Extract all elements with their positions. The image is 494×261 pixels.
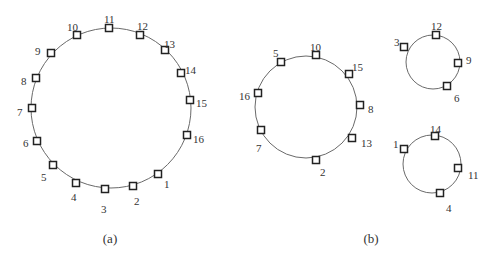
- node-square-2: [130, 183, 137, 190]
- node-label: 2: [134, 195, 140, 207]
- node-label: 5: [41, 171, 47, 183]
- ring-circle: [403, 135, 461, 193]
- node-square-2: [313, 157, 320, 164]
- panel-1: 10158132716512963141141(b): [239, 20, 479, 246]
- node-label: 7: [17, 106, 23, 118]
- node-square-3: [102, 186, 109, 193]
- node-label: 14: [430, 123, 442, 135]
- node-label: 10: [67, 21, 79, 33]
- node-label: 8: [21, 75, 27, 87]
- ring-diagram: 11121314151612345678910(a)10158132716512…: [0, 0, 494, 261]
- node-square-11: [106, 25, 113, 32]
- node-square-9: [455, 60, 462, 67]
- node-square-11: [455, 165, 462, 172]
- node-label: 15: [352, 61, 364, 73]
- node-square-14: [178, 70, 185, 77]
- ring-circle: [406, 35, 460, 89]
- node-label: 10: [310, 41, 322, 53]
- node-label: 6: [23, 137, 29, 149]
- node-label: 9: [466, 54, 472, 66]
- node-square-6: [34, 138, 41, 145]
- node-label: 12: [137, 20, 148, 32]
- node-label: 11: [104, 13, 115, 25]
- ring-b3: 141141: [393, 123, 479, 214]
- panel-caption: (a): [103, 231, 117, 246]
- node-label: 14: [185, 64, 197, 76]
- node-label: 13: [164, 38, 176, 50]
- node-label: 6: [454, 92, 460, 104]
- ring-b2: 12963: [394, 20, 472, 104]
- node-square-4: [437, 190, 444, 197]
- node-label: 11: [468, 169, 479, 181]
- node-label: 9: [35, 45, 41, 57]
- node-label: 1: [164, 178, 170, 190]
- node-square-8: [357, 102, 364, 109]
- node-square-13: [349, 135, 356, 142]
- node-square-7: [29, 105, 36, 112]
- node-square-9: [48, 50, 55, 57]
- ring-b1: 101581327165: [239, 41, 374, 178]
- node-label: 8: [368, 103, 374, 115]
- node-label: 3: [394, 36, 400, 48]
- panel-caption: (b): [363, 231, 378, 246]
- ring-circle: [255, 56, 357, 158]
- node-square-8: [33, 75, 40, 82]
- node-label: 1: [393, 138, 399, 150]
- panel-0: 11121314151612345678910(a): [17, 13, 208, 246]
- node-label: 12: [431, 20, 442, 32]
- node-label: 3: [101, 203, 107, 215]
- node-square-12: [433, 32, 440, 39]
- node-label: 16: [239, 90, 251, 102]
- node-square-5: [278, 59, 285, 66]
- node-label: 7: [256, 142, 262, 154]
- node-square-6: [444, 83, 451, 90]
- node-square-16: [255, 90, 262, 97]
- node-square-7: [258, 127, 265, 134]
- node-label: 13: [361, 137, 373, 149]
- node-label: 15: [196, 97, 208, 109]
- node-label: 4: [446, 202, 452, 214]
- node-label: 4: [71, 191, 77, 203]
- node-label: 16: [193, 133, 205, 145]
- node-square-5: [50, 162, 57, 169]
- node-square-1: [401, 146, 408, 153]
- ring-a: 11121314151612345678910: [17, 13, 208, 215]
- node-label: 5: [273, 47, 279, 59]
- node-square-12: [137, 32, 144, 39]
- node-square-4: [73, 180, 80, 187]
- node-square-16: [184, 132, 191, 139]
- node-square-15: [187, 97, 194, 104]
- node-label: 2: [320, 166, 326, 178]
- node-square-3: [401, 44, 408, 51]
- node-square-1: [155, 171, 162, 178]
